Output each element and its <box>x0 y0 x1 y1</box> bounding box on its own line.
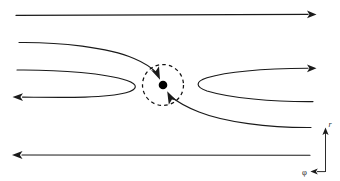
streamline-bottom-straight <box>12 151 310 159</box>
central-point-dot <box>159 81 168 90</box>
figure-canvas: r φ <box>0 0 340 181</box>
streamline-lower-right-inflow <box>167 91 311 127</box>
streamline-upper-left-inflow <box>19 42 160 79</box>
streamline-top-straight <box>16 11 317 19</box>
axis-label-r: r <box>329 120 333 129</box>
streamline-left-hairpin <box>13 70 136 101</box>
axis-indicator <box>310 128 328 175</box>
axis-label-phi: φ <box>302 167 307 177</box>
streamline-right-hairpin <box>198 64 316 101</box>
streamline-figure: r φ <box>0 0 340 181</box>
